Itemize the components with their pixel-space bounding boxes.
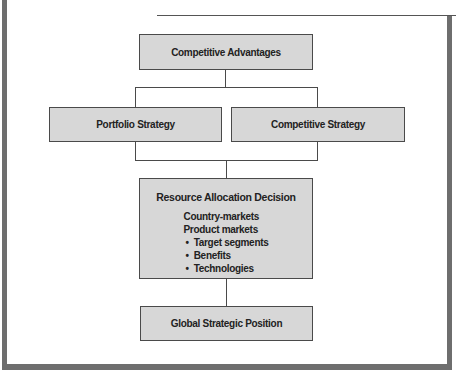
frame-left-border xyxy=(2,0,7,370)
connector-top-horizontal xyxy=(135,87,318,88)
frame-right-border xyxy=(447,16,452,370)
connector-top-right-drop xyxy=(317,87,318,107)
competitive-advantages-label: Competitive Advantages xyxy=(171,47,281,58)
competitive-advantages-box: Competitive Advantages xyxy=(139,34,313,70)
resource-allocation-box: Resource Allocation Decision Country-mar… xyxy=(139,178,313,279)
bullet-item: Technologies xyxy=(184,262,269,275)
resource-allocation-list: Country-markets Product markets Target s… xyxy=(184,210,269,275)
portfolio-strategy-label: Portfolio Strategy xyxy=(96,119,175,130)
connector-mid-left-drop xyxy=(135,141,136,161)
top-rule xyxy=(157,15,456,16)
bullet-item: Benefits xyxy=(184,249,269,262)
global-strategic-position-label: Global Strategic Position xyxy=(171,318,282,329)
list-item: Country-markets xyxy=(184,210,269,223)
global-strategic-position-box: Global Strategic Position xyxy=(140,306,313,341)
bullet-item: Target segments xyxy=(184,236,269,249)
frame-bottom-border xyxy=(2,364,452,370)
connector-mid-right-drop xyxy=(317,141,318,161)
resource-allocation-title: Resource Allocation Decision xyxy=(156,191,295,203)
competitive-strategy-box: Competitive Strategy xyxy=(231,107,405,142)
connector-bottom-vertical xyxy=(226,278,227,306)
competitive-strategy-label: Competitive Strategy xyxy=(271,119,365,130)
list-item: Product markets xyxy=(184,223,269,236)
connector-mid-vertical xyxy=(226,160,227,178)
connector-top-left-drop xyxy=(135,87,136,107)
connector-top-vertical xyxy=(225,69,226,87)
portfolio-strategy-box: Portfolio Strategy xyxy=(49,107,222,142)
